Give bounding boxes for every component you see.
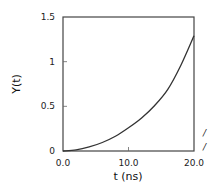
edge-mark: / <box>202 142 207 152</box>
y-tick-label: 1.5 <box>41 12 55 22</box>
chart: 00.511.50.010.020.0 t (ns) Y(t) // <box>0 0 208 189</box>
plot-frame <box>63 17 194 151</box>
edge-mark: / <box>202 128 207 138</box>
series-group <box>63 36 194 151</box>
series-line <box>63 36 194 151</box>
x-axis-title: t (ns) <box>113 170 142 183</box>
edge-marks: // <box>202 128 207 152</box>
tick-labels: 00.511.50.010.020.0 <box>41 12 205 168</box>
x-tick-label: 20.0 <box>184 158 204 168</box>
x-tick-label: 0.0 <box>56 158 71 168</box>
plot-frame-box <box>63 17 194 151</box>
y-tick-label: 1 <box>49 57 55 67</box>
y-tick-label: 0 <box>49 146 55 156</box>
ticks <box>63 62 129 151</box>
x-tick-label: 10.0 <box>118 158 138 168</box>
y-tick-label: 0.5 <box>41 101 55 111</box>
y-axis-title: Y(t) <box>10 74 23 95</box>
